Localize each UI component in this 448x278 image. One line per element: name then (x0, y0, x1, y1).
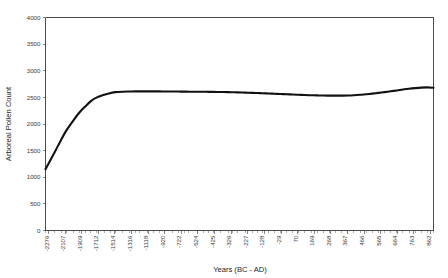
x-tick-label: -128 (258, 235, 265, 248)
x-tick-label: 862 (425, 235, 432, 246)
y-tick-label: 4000 (27, 14, 41, 21)
y-tick-label: 3000 (27, 67, 41, 74)
x-tick-label: -2276 (43, 235, 50, 251)
chart-container: 05001000150020002500300035004000 -2276-2… (0, 0, 448, 278)
x-tick-label: 664 (391, 235, 398, 246)
x-tick-label: -326 (225, 235, 232, 248)
x-tick-label: -2107 (59, 235, 66, 251)
y-tick-label: 1500 (27, 147, 41, 154)
x-tick-label: 367 (341, 235, 348, 246)
x-tick-label: 466 (358, 235, 365, 246)
y-tick-label: 2500 (27, 94, 41, 101)
x-tick-label: 763 (408, 235, 415, 246)
x-tick-label: 70 (292, 235, 299, 242)
y-axis-title: Arboreal Pollen Count (4, 86, 13, 161)
x-tick-label: -1909 (76, 235, 83, 251)
pollen-count-line-chart: 05001000150020002500300035004000 -2276-2… (0, 0, 448, 278)
x-tick-label: 565 (375, 235, 382, 246)
x-tick-label: 268 (325, 235, 332, 246)
x-tick-label: -1316 (126, 235, 133, 251)
x-tick-label: -227 (242, 235, 249, 248)
y-tick-label: 3500 (27, 40, 41, 47)
x-tick-label: -29 (275, 235, 282, 245)
x-tick-label: 169 (308, 235, 315, 246)
x-axis-title: Years (BC - AD) (213, 265, 267, 274)
y-tick-label: 0 (37, 227, 41, 234)
y-tick-label: 500 (30, 200, 41, 207)
y-tick-label: 1000 (27, 173, 41, 180)
x-tick-label: -1514 (109, 235, 116, 251)
x-tick-label: -1118 (142, 235, 149, 250)
x-tick-label: -1712 (92, 235, 99, 251)
y-tick-label: 2000 (27, 120, 41, 127)
x-tick-label: -425 (209, 235, 216, 248)
x-tick-label: -722 (175, 235, 182, 248)
x-tick-label: -524 (192, 235, 199, 248)
x-tick-label: -920 (159, 235, 166, 248)
